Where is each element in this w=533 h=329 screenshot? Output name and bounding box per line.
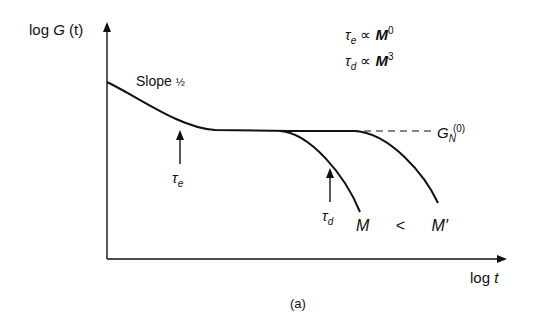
less-than: < [396,217,405,234]
curve-common [107,82,290,131]
plateau-sub: N [449,133,456,144]
slope-text: Slope [136,73,176,89]
exponent: 3 [388,51,394,62]
figure-caption: (a) [290,297,306,310]
caption-text: (a) [290,296,306,311]
relation-tau-d: τd ∝ M3 [345,52,394,72]
tau-subscript: e [178,178,184,189]
tau-e-label: τe [172,170,183,189]
y-label-prefix: log [29,21,53,38]
slope-label: Slope ½ [136,74,185,88]
mass-left: M [356,217,369,234]
mass-var: M [376,52,389,69]
plateau-sup: (0) [453,123,465,134]
curve-M-prime [290,131,438,203]
proportional-symbol: ∝ [356,52,375,69]
plateau-label: GN(0) [437,124,465,144]
relation-tau-e: τe ∝ M0 [345,26,394,46]
exponent: 0 [388,25,394,36]
curve-M [280,131,360,212]
plateau-var: G [437,124,449,141]
mass-compare: M < M′ [356,218,448,234]
mass-var: M [376,26,389,43]
y-label-paren: (t) [69,21,83,38]
mass-right: M′ [432,217,448,234]
tau-subscript: d [328,216,334,227]
slope-fraction: ½ [176,76,185,88]
proportional-symbol: ∝ [356,26,375,43]
x-label-var: t [494,269,498,286]
y-label-var: G [53,21,65,38]
diagram-canvas [0,0,533,329]
x-label-prefix: log [470,269,494,286]
y-axis-label: log G (t) [29,22,83,37]
x-axis-label: log t [470,270,498,285]
tau-d-label: τd [322,208,333,227]
